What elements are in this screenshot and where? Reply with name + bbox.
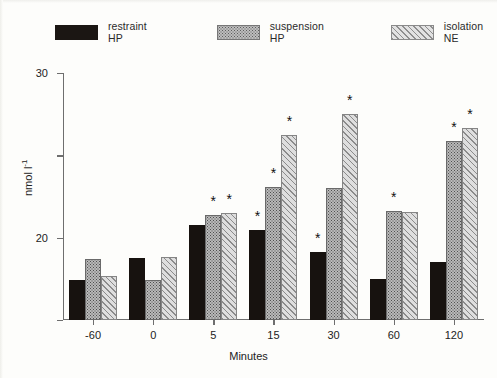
- bar-restraint-hp--60[interactable]: [69, 280, 85, 320]
- significance-asterisk: *: [467, 107, 472, 121]
- y-axis-tick-label: 20: [36, 232, 48, 244]
- bar-groups: -600**5***15**30*60**120: [63, 73, 484, 320]
- significance-asterisk: *: [451, 120, 456, 134]
- bar-isolation-ne-0[interactable]: [161, 257, 177, 320]
- legend-item-suspension-hp: suspension HP: [217, 20, 337, 44]
- bar-isolation-ne-120[interactable]: [462, 128, 478, 320]
- bar-suspension-hp-0[interactable]: [145, 280, 161, 320]
- bar-restraint-hp-60[interactable]: [370, 279, 386, 320]
- y-axis-tick: 0: [57, 320, 63, 321]
- x-axis-tick-label: 0: [150, 329, 156, 341]
- x-axis-tick-label: 5: [210, 329, 216, 341]
- significance-asterisk: *: [271, 166, 276, 180]
- significance-asterisk: *: [211, 194, 216, 208]
- scan-edge-top: [0, 0, 497, 3]
- bar-suspension-hp--60[interactable]: [85, 259, 101, 320]
- bar-group: -60: [63, 73, 123, 320]
- bar-restraint-hp-0[interactable]: [129, 258, 145, 320]
- x-axis-tick: [213, 320, 214, 325]
- legend-label-restraint-hp: restraint HP: [108, 20, 161, 44]
- bar-restraint-hp-15[interactable]: [249, 230, 265, 320]
- legend-label-suspension-hp: suspension HP: [270, 20, 337, 44]
- bar-isolation-ne-15[interactable]: [281, 135, 297, 320]
- bar-suspension-hp-30[interactable]: [326, 188, 342, 320]
- bar-group: *60: [364, 73, 424, 320]
- chart-legend: restraint HP suspension HP isolation NE: [55, 20, 497, 44]
- y-axis-tick-label: 30: [36, 67, 48, 79]
- bar-isolation-ne-30[interactable]: [342, 114, 358, 320]
- bar-isolation-ne-60[interactable]: [402, 212, 418, 320]
- bar-suspension-hp-120[interactable]: [446, 141, 462, 320]
- significance-asterisk: *: [315, 231, 320, 245]
- figure-canvas: restraint HP suspension HP isolation NE …: [0, 0, 497, 378]
- x-axis-tick: [454, 320, 455, 325]
- plot-area: 0102030 -600**5***15**30*60**120: [63, 73, 484, 320]
- y-axis-title: nmol l-1: [20, 160, 34, 196]
- bar-group: **120: [424, 73, 484, 320]
- x-axis-tick-label: 120: [445, 329, 463, 341]
- bar-suspension-hp-15[interactable]: [265, 187, 281, 320]
- legend-label-isolation-ne: isolation NE: [444, 20, 497, 44]
- x-axis-tick: [273, 320, 274, 325]
- significance-asterisk: *: [227, 192, 232, 206]
- legend-swatch-stipple-icon: [217, 25, 260, 40]
- significance-asterisk: *: [255, 209, 260, 223]
- legend-item-isolation-ne: isolation NE: [391, 20, 497, 44]
- x-axis-tick-label: 30: [328, 329, 340, 341]
- bar-suspension-hp-5[interactable]: [205, 215, 221, 320]
- x-axis-tick-label: 15: [267, 329, 279, 341]
- x-axis-tick: [334, 320, 335, 325]
- y-axis-title-exponent: -1: [20, 160, 29, 167]
- x-axis-tick-label: 60: [388, 329, 400, 341]
- bar-group: ***15: [243, 73, 303, 320]
- bar-restraint-hp-5[interactable]: [189, 225, 205, 321]
- bar-group: **5: [183, 73, 243, 320]
- legend-item-restraint-hp: restraint HP: [55, 20, 161, 44]
- bar-restraint-hp-120[interactable]: [430, 262, 446, 320]
- significance-asterisk: *: [347, 93, 352, 107]
- significance-asterisk: *: [287, 114, 292, 128]
- legend-swatch-solid-icon: [55, 25, 98, 40]
- bar-restraint-hp-30[interactable]: [310, 252, 326, 320]
- bar-isolation-ne-5[interactable]: [221, 213, 237, 320]
- scan-edge-left: [0, 0, 3, 378]
- bar-group: **30: [304, 73, 364, 320]
- legend-swatch-hatch-icon: [391, 25, 434, 40]
- x-axis-tick: [394, 320, 395, 325]
- x-axis-tick: [93, 320, 94, 325]
- y-axis-title-base: nmol l: [22, 167, 34, 196]
- bar-isolation-ne--60[interactable]: [101, 276, 117, 320]
- x-axis-tick: [153, 320, 154, 325]
- significance-asterisk: *: [391, 190, 396, 204]
- x-axis-title: Minutes: [0, 350, 497, 362]
- bar-group: 0: [123, 73, 183, 320]
- x-axis-tick-label: -60: [85, 329, 101, 341]
- bar-suspension-hp-60[interactable]: [386, 211, 402, 321]
